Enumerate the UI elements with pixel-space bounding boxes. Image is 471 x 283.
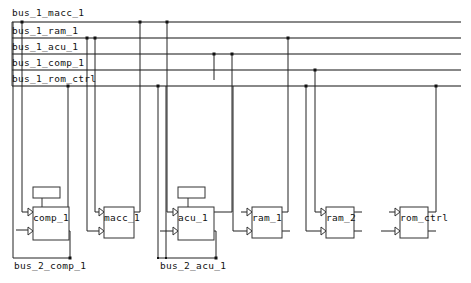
- input-buffer-icon: [321, 227, 326, 235]
- local-bus-label-comp-1: bus_2_comp_1: [14, 260, 86, 271]
- component-label-acu-1: acu_1: [178, 212, 208, 223]
- input-buffer-icon: [99, 227, 104, 235]
- components: [28, 187, 428, 240]
- bus-label-ram-1: bus_1_ram_1: [12, 25, 78, 36]
- tap-dot: [94, 37, 97, 40]
- tap-dot: [139, 21, 142, 24]
- bus-label-macc-1: bus_1_macc_1: [12, 7, 84, 18]
- bus-label-rom-ctrl: bus_1_rom_ctrl: [12, 73, 96, 84]
- wire-macc1-in1: [95, 38, 99, 212]
- bus-label-comp-1: bus_1_comp_1: [12, 57, 84, 68]
- wire-ram2-in1: [315, 70, 321, 212]
- wire-macc1-in2: [87, 38, 99, 231]
- tap-dot: [86, 37, 89, 40]
- tap-dot: [166, 21, 169, 24]
- input-buffer-icon: [28, 227, 33, 235]
- tap-dot: [21, 21, 24, 24]
- register-box: [33, 187, 60, 198]
- wire-ram2-in2: [306, 86, 321, 231]
- component-label-macc-1: macc_1: [104, 212, 140, 223]
- wire-ram1-out: [282, 38, 288, 212]
- tap-dot: [165, 257, 167, 259]
- wire-macc1-out: [134, 22, 140, 212]
- tap-dot: [305, 85, 308, 88]
- wire-acu1-in1: [167, 22, 173, 212]
- register-box: [178, 187, 205, 198]
- bus-label-acu-1: bus_1_acu_1: [12, 41, 78, 52]
- input-buffer-icon: [173, 227, 178, 235]
- tap-dot: [231, 53, 234, 56]
- tap-dot: [287, 37, 290, 40]
- component-label-ram-1: ram_1: [252, 212, 282, 223]
- tap-dot: [314, 69, 317, 72]
- tap-dot: [213, 53, 216, 56]
- tap-dot: [67, 85, 70, 88]
- component-label-ram-2: ram_2: [326, 212, 356, 223]
- tap-dot: [435, 85, 438, 88]
- tap-dot: [157, 257, 159, 259]
- input-buffer-icon: [247, 227, 252, 235]
- local-bus-label-acu-1: bus_2_acu_1: [160, 260, 226, 271]
- input-buffer-icon: [395, 227, 400, 235]
- wire-acu1-out: [214, 54, 232, 212]
- wire-ram1-in2: [233, 86, 247, 231]
- wire-romctrl-out: [428, 86, 436, 212]
- wire-comp1-out: [68, 86, 69, 212]
- tap-dot: [157, 85, 160, 88]
- component-label-rom-ctrl: rom_ctrl: [400, 212, 448, 223]
- component-label-comp-1: comp_1: [33, 212, 69, 223]
